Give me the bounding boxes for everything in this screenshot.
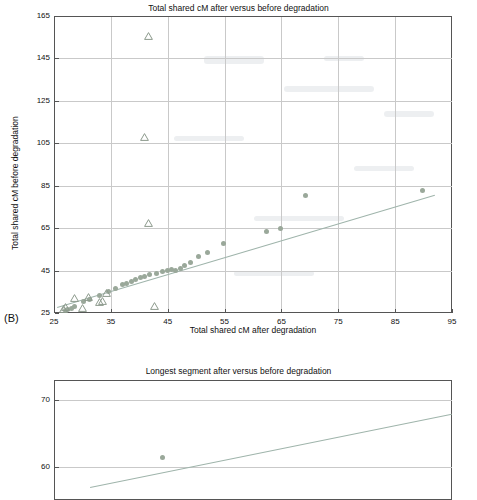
data-point-triangle [84, 293, 93, 301]
scan-artifact [384, 111, 434, 117]
y-tick-label: 145 [24, 53, 50, 62]
data-point-triangle [102, 289, 111, 297]
gridline-horizontal [55, 101, 452, 102]
data-point-circle [188, 260, 193, 265]
x-tick-label: 85 [381, 317, 409, 326]
x-tick-label: 65 [267, 317, 295, 326]
gridline-horizontal [55, 228, 452, 229]
x-tick-mark [452, 309, 453, 313]
scan-artifact [284, 86, 374, 92]
scan-artifact [354, 166, 414, 171]
data-point-triangle [140, 133, 149, 141]
gridline-vertical [111, 17, 112, 313]
chart1-title: Total shared cM after versus before degr… [0, 3, 477, 13]
y-tick-mark [55, 186, 59, 187]
y-tick-label: 105 [24, 138, 50, 147]
x-tick-label: 35 [97, 317, 125, 326]
data-point-triangle [150, 302, 159, 310]
data-point-triangle [144, 32, 153, 40]
x-tick-mark [395, 309, 396, 313]
data-point-circle [303, 193, 308, 198]
x-tick-label: 25 [40, 317, 68, 326]
gridline-vertical [338, 17, 339, 313]
chart2-title: Longest segment after versus before degr… [0, 366, 477, 376]
data-point-circle [113, 286, 118, 291]
gridline-horizontal [55, 467, 452, 468]
x-tick-mark [281, 309, 282, 313]
x-tick-mark [111, 309, 112, 313]
data-point-circle [205, 250, 210, 255]
y-tick-label: 60 [24, 462, 50, 471]
chart1-y-axis-label: Total shared cM before degradation [10, 116, 20, 250]
x-tick-label: 95 [438, 317, 466, 326]
y-tick-label: 165 [24, 11, 50, 20]
scan-artifact [254, 216, 344, 221]
y-tick-label: 125 [24, 96, 50, 105]
x-tick-label: 45 [154, 317, 182, 326]
gridline-vertical [395, 17, 396, 313]
gridline-vertical [281, 17, 282, 313]
x-tick-mark [225, 309, 226, 313]
y-tick-label: 65 [24, 223, 50, 232]
y-tick-label: 25 [24, 308, 50, 317]
x-tick-mark [338, 309, 339, 313]
data-point-triangle [70, 294, 79, 302]
data-point-circle [160, 269, 165, 274]
gridline-horizontal [55, 186, 452, 187]
gridline-horizontal [55, 58, 452, 59]
x-tick-mark [168, 309, 169, 313]
data-point-triangle [78, 304, 87, 312]
data-point-triangle [98, 297, 107, 305]
y-tick-mark [55, 143, 59, 144]
data-point-triangle [61, 303, 70, 311]
chart-total-shared-cm: Total shared cM after versus before degr… [0, 0, 477, 340]
y-tick-mark [55, 271, 59, 272]
y-tick-mark [55, 58, 59, 59]
y-tick-label: 70 [24, 395, 50, 404]
x-tick-label: 55 [211, 317, 239, 326]
data-point-circle [160, 455, 165, 460]
chart1-x-axis-label: Total shared cM after degradation [54, 325, 452, 335]
gridline-vertical [225, 17, 226, 313]
panel-letter-b: (B) [4, 312, 19, 324]
y-tick-mark [55, 467, 59, 468]
scan-artifact [174, 136, 244, 141]
data-point-circle [221, 241, 226, 246]
y-tick-label: 45 [24, 266, 50, 275]
gridline-horizontal [55, 143, 452, 144]
y-tick-mark [55, 16, 59, 17]
gridline-horizontal [55, 400, 452, 401]
x-tick-label: 75 [324, 317, 352, 326]
chart-longest-segment: Longest segment after versus before degr… [0, 352, 477, 437]
y-tick-label: 85 [24, 181, 50, 190]
y-tick-mark [55, 400, 59, 401]
y-tick-mark [55, 101, 59, 102]
data-point-triangle [144, 219, 153, 227]
gridline-horizontal [55, 271, 452, 272]
y-tick-mark [55, 228, 59, 229]
